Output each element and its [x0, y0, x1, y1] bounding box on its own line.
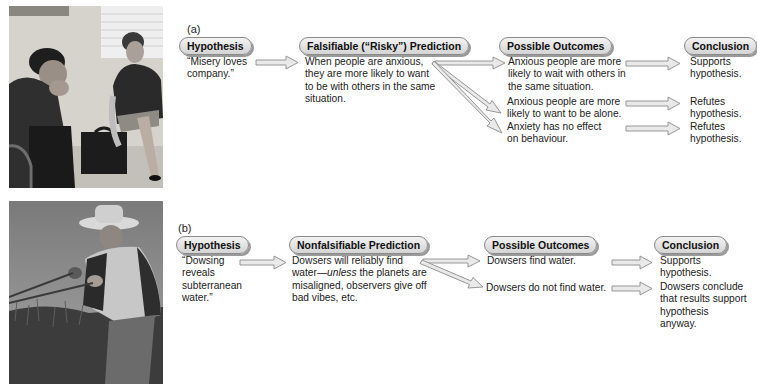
panel-b-label: (b) [178, 222, 191, 234]
outcome-a-2: Anxious people are more likely to want t… [507, 96, 625, 121]
header-outcomes-a: Possible Outcomes [499, 37, 612, 55]
header-prediction-a: Falsifiable (“Risky”) Prediction [299, 37, 469, 55]
arrow-right-icon [240, 256, 286, 269]
header-conclusion-b: Conclusion [654, 236, 727, 254]
conclusion-b-2: Dowsers conclude that results support hy… [660, 281, 748, 331]
arrow-right-icon [612, 282, 652, 295]
header-prediction-b: Nonfalsifiable Prediction [289, 236, 428, 254]
arrow-right-icon [612, 256, 652, 269]
arrow-right-icon [626, 57, 680, 70]
arrow-right-icon [435, 57, 505, 69]
hypothesis-text-b: “Dowsing reveals subterranean water.” [182, 255, 244, 305]
hypothesis-text-a: “Misery loves company.” [187, 56, 255, 81]
outcome-a-1: Anxious people are more likely to wait w… [508, 56, 626, 93]
conclusion-a-3: Refutes hypothesis. [690, 121, 746, 146]
prediction-text-a: When people are anxious, they are more l… [305, 56, 440, 106]
outcome-a-3: Anxiety has no effect on behaviour. [507, 121, 607, 146]
arrow-diagonal-icon [432, 61, 501, 113]
prediction-text-b-emphasis: unless [327, 267, 356, 278]
arrow-diagonal-icon [432, 61, 502, 133]
header-hypothesis-a: Hypothesis [179, 37, 252, 55]
outcome-b-1: Dowsers find water. [487, 255, 607, 267]
header-outcomes-b: Possible Outcomes [484, 236, 597, 254]
outcome-b-2: Dowsers do not find water. [486, 282, 616, 294]
conclusion-b-1: Supports hypothesis. [660, 255, 720, 280]
prediction-text-b: Dowsers will reliably find water—unless … [292, 255, 430, 305]
panel-a-label: (a) [187, 23, 200, 35]
conclusion-a-2: Refutes hypothesis. [690, 96, 746, 121]
header-hypothesis-b: Hypothesis [176, 236, 249, 254]
arrow-right-icon [626, 122, 680, 135]
arrow-right-icon [256, 56, 298, 69]
header-conclusion-a: Conclusion [684, 37, 757, 55]
conclusion-a-1: Supports hypothesis. [690, 56, 746, 81]
arrow-right-icon [626, 97, 680, 110]
